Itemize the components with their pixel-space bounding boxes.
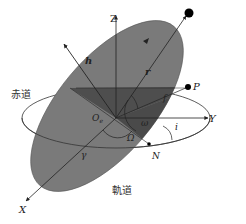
satellite-dot — [185, 9, 194, 18]
inclination-arc — [163, 126, 172, 140]
diagram-canvas: Z X Y h r 赤道 軌道 Oe f ω Ω i N P γ — [0, 0, 246, 224]
r-vector-label: r — [145, 66, 151, 77]
node-dot — [147, 142, 151, 146]
inclination-label: i — [175, 122, 178, 132]
vernal-equinox-label: γ — [81, 150, 87, 160]
y-axis-label: Y — [209, 113, 217, 124]
z-axis-label: Z — [110, 13, 117, 24]
h-vector-label: h — [85, 55, 92, 66]
orbit-label: 軌道 — [112, 184, 132, 196]
ascending-node-label: N — [151, 151, 161, 161]
perigee-label: P — [192, 81, 200, 92]
perigee-dot — [185, 84, 191, 90]
equator-label: 赤道 — [11, 88, 31, 100]
arg-perigee-label: ω — [141, 118, 149, 128]
orbital-elements-diagram: Z X Y h r 赤道 軌道 Oe f ω Ω i N P γ — [0, 0, 246, 224]
x-axis-label: X — [18, 204, 27, 215]
raan-label: Ω — [126, 133, 135, 143]
